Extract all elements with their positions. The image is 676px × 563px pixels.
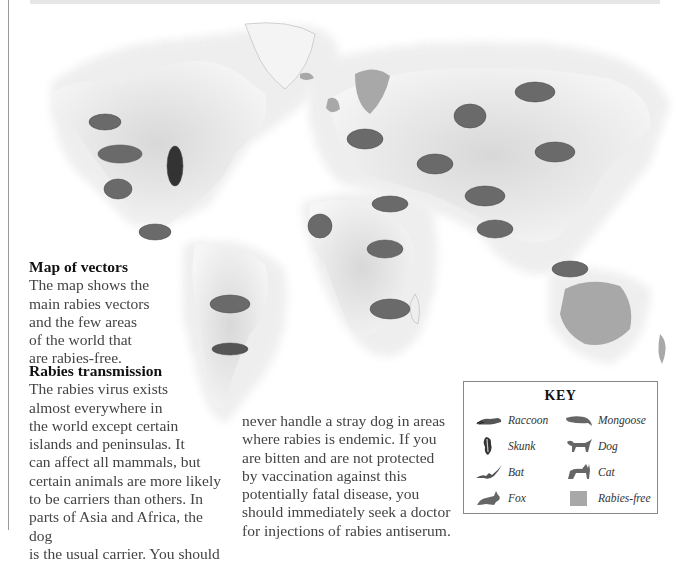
key-item-skunk: Skunk bbox=[474, 436, 564, 456]
key-label-raccoon: Raccoon bbox=[508, 414, 548, 426]
map-key: KEY Raccoon Mongoose Skunk Dog Bat Cat bbox=[463, 381, 658, 514]
transmission-heading: Rabies transmission bbox=[29, 362, 229, 380]
mongoose-icon bbox=[564, 410, 594, 430]
key-item-rabies-free: Rabies-free bbox=[564, 488, 654, 508]
transmission-body-col1: The rabies virus exists almost everywher… bbox=[29, 380, 229, 563]
key-item-dog: Dog bbox=[564, 436, 654, 456]
key-label-rabies-free: Rabies-free bbox=[598, 492, 651, 504]
dog-marker-india bbox=[477, 220, 513, 238]
cat-icon bbox=[564, 462, 594, 482]
key-item-fox: Fox bbox=[474, 488, 564, 508]
cat-marker-africa bbox=[308, 214, 332, 238]
raccoon-icon bbox=[474, 410, 504, 430]
key-item-bat: Bat bbox=[474, 462, 564, 482]
key-label-fox: Fox bbox=[508, 492, 526, 504]
cat-marker-usa bbox=[104, 179, 132, 199]
dog-marker-se-asia bbox=[552, 261, 588, 277]
fox-marker-mexico bbox=[139, 224, 171, 240]
dog-marker-central-asia bbox=[465, 186, 505, 206]
bat-marker-africa bbox=[372, 196, 408, 212]
dog-marker-south-america bbox=[210, 295, 250, 313]
raccoon-marker bbox=[98, 145, 142, 163]
transmission-text-block-continued: never handle a stray dog in areas where … bbox=[242, 412, 457, 540]
new-zealand bbox=[658, 334, 665, 364]
key-grid: Raccoon Mongoose Skunk Dog Bat Cat Fox bbox=[474, 410, 654, 508]
bat-marker-south-america bbox=[212, 343, 248, 355]
fox-marker-east-asia bbox=[535, 142, 575, 162]
key-item-mongoose: Mongoose bbox=[564, 410, 654, 430]
dog-marker-siberia bbox=[515, 82, 555, 102]
dog-marker-middle-east bbox=[417, 154, 453, 174]
key-label-mongoose: Mongoose bbox=[598, 414, 646, 426]
skunk-icon bbox=[474, 436, 504, 456]
key-label-cat: Cat bbox=[598, 466, 615, 478]
key-item-raccoon: Raccoon bbox=[474, 410, 564, 430]
dog-marker-africa bbox=[367, 240, 403, 258]
skunk-marker bbox=[167, 146, 183, 186]
fox-marker-alaska bbox=[89, 114, 121, 130]
left-border-rule bbox=[8, 0, 9, 530]
dog-icon bbox=[564, 436, 594, 456]
transmission-body-col2: never handle a stray dog in areas where … bbox=[242, 412, 457, 540]
key-label-dog: Dog bbox=[598, 440, 618, 452]
bat-icon bbox=[474, 462, 504, 482]
key-item-cat: Cat bbox=[564, 462, 654, 482]
vectors-heading: Map of vectors bbox=[29, 258, 199, 276]
rabies-free-swatch bbox=[570, 491, 587, 506]
key-label-skunk: Skunk bbox=[508, 440, 535, 452]
fox-icon bbox=[474, 488, 504, 508]
vectors-body: The map shows the main rabies vectors an… bbox=[29, 276, 199, 367]
key-title: KEY bbox=[464, 388, 657, 404]
cat-marker-russia bbox=[454, 104, 486, 128]
transmission-text-block: Rabies transmission The rabies virus exi… bbox=[29, 362, 229, 563]
mongoose-marker bbox=[370, 299, 410, 319]
vectors-text-block: Map of vectors The map shows the main ra… bbox=[29, 258, 199, 368]
key-label-bat: Bat bbox=[508, 466, 524, 478]
fox-marker-europe bbox=[347, 129, 383, 149]
